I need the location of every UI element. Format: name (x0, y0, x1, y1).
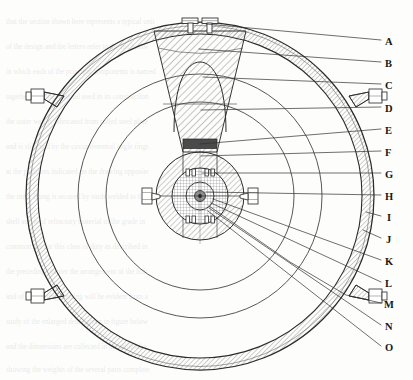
callout-label-g[interactable]: G (385, 170, 393, 181)
callout-label-h[interactable]: H (385, 192, 393, 203)
callout-label-o[interactable]: O (385, 343, 393, 354)
callout-label-f[interactable]: F (385, 148, 392, 159)
svg-text:that the section shown her: that the section shown here represents a… (6, 18, 155, 26)
callout-label-k[interactable]: K (385, 257, 393, 268)
callout-label-m[interactable]: M (384, 300, 394, 311)
callout-label-d[interactable]: D (385, 104, 393, 115)
leader-O (208, 211, 381, 346)
callout-label-n[interactable]: N (385, 322, 393, 333)
svg-text:common use for this class: common use for this class of duty as des… (6, 243, 148, 251)
callout-label-l[interactable]: L (385, 279, 392, 290)
callout-label-i[interactable]: I (387, 213, 391, 224)
svg-text:and is stiffened by the c: and is stiffened by the circumferential … (6, 143, 149, 151)
leader-F (201, 151, 381, 156)
svg-text:the outer wall is fabricat: the outer wall is fabricated from rolled… (6, 118, 148, 126)
leader-K (213, 199, 381, 260)
figure-root: that the section shown here represents a… (0, 0, 413, 380)
svg-text:showing the weights of the: showing the weights of the several parts… (6, 366, 150, 374)
callout-label-e[interactable]: E (385, 126, 392, 137)
callout-label-c[interactable]: C (385, 81, 393, 92)
callout-label-b[interactable]: B (385, 59, 392, 70)
svg-text:the preceding chapter the: the preceding chapter the arrangement of… (6, 268, 147, 276)
lug-upper-left (26, 89, 64, 107)
lug-upper-right (349, 89, 387, 107)
callout-label-a[interactable]: A (385, 37, 393, 48)
cross-section-diagram: that the section shown here represents a… (0, 0, 413, 380)
callout-label-j[interactable]: J (386, 235, 391, 246)
